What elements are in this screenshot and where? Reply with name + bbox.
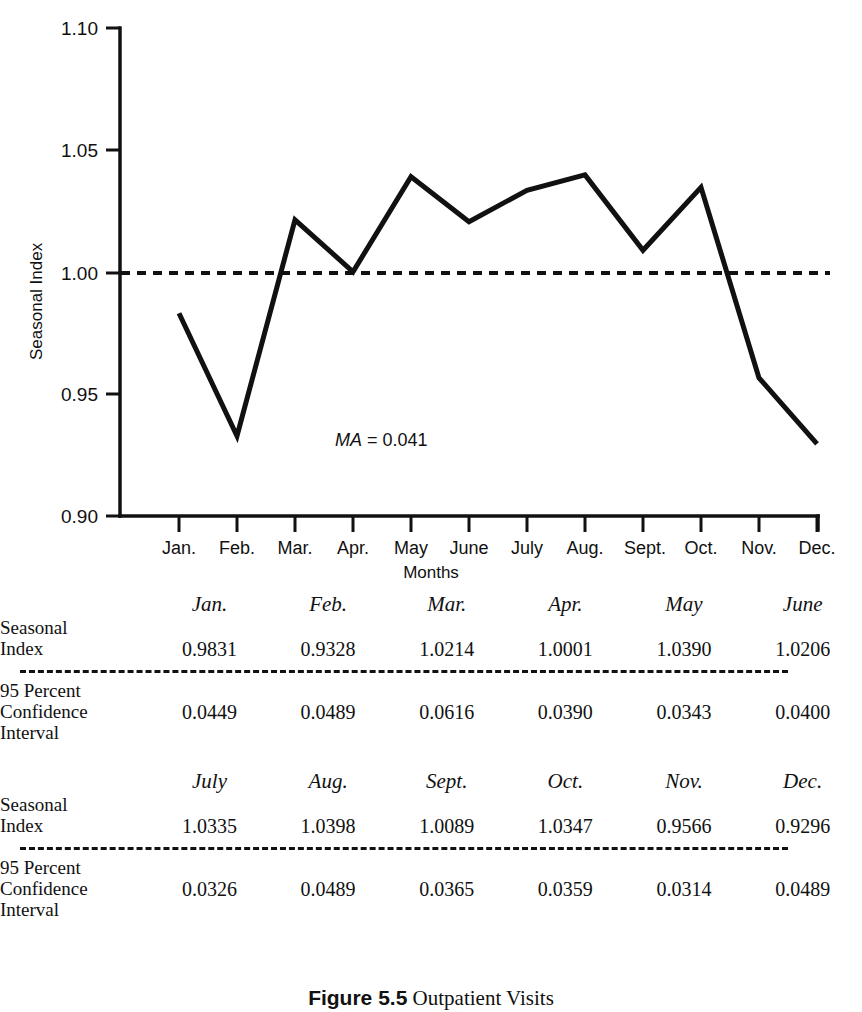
row-label-confidence-interval: 95 Percent Confidence Interval: [0, 855, 150, 920]
table-block-gap: [0, 743, 862, 769]
row-label-confidence-interval: 95 Percent Confidence Interval: [0, 678, 150, 743]
cell-seasonal-index-mar: 1.0214: [387, 617, 506, 661]
seasonal-index-chart: 1.10 1.05 1.00 0.95 0.90 Seasonal Index …: [0, 0, 862, 590]
table-header-row: July Aug. Sept. Oct. Nov. Dec.: [0, 769, 862, 794]
cell-confidence-interval-dec: 0.0489: [743, 855, 862, 920]
column-header-aug: Aug.: [269, 769, 388, 794]
table-block-first-half: Jan. Feb. Mar. Apr. May June Seasonal In…: [0, 592, 862, 743]
dashed-row-separator: [20, 847, 788, 850]
y-tick-label-100: 1.00: [61, 263, 98, 284]
figure-caption-number: Figure 5.5: [308, 986, 407, 1009]
x-tick-label-nov: Nov.: [741, 538, 777, 558]
data-table-second-half-ci: 95 Percent Confidence Interval 0.0326 0.…: [0, 855, 862, 920]
cell-confidence-interval-may: 0.0343: [625, 678, 744, 743]
y-tick-label-105: 1.05: [61, 140, 98, 161]
cell-seasonal-index-sept: 1.0089: [387, 794, 506, 838]
row-separator-wrap: [0, 838, 862, 855]
cell-confidence-interval-aug: 0.0489: [269, 855, 388, 920]
y-tick-label-110: 1.10: [61, 18, 98, 39]
cell-confidence-interval-june: 0.0400: [743, 678, 862, 743]
y-axis-title: Seasonal Index: [27, 242, 46, 360]
data-table-first-half-ci: 95 Percent Confidence Interval 0.0449 0.…: [0, 678, 862, 743]
cell-seasonal-index-aug: 1.0398: [269, 794, 388, 838]
y-tick-label-090: 0.90: [61, 506, 98, 527]
cell-seasonal-index-nov: 0.9566: [625, 794, 744, 838]
data-table-second-half: July Aug. Sept. Oct. Nov. Dec. Seasonal …: [0, 769, 862, 838]
row-separator-wrap: [0, 661, 862, 678]
table-block-second-half: July Aug. Sept. Oct. Nov. Dec. Seasonal …: [0, 769, 862, 920]
column-header-sept: Sept.: [387, 769, 506, 794]
table-row-seasonal-index: Seasonal Index 0.9831 0.9328 1.0214 1.00…: [0, 617, 862, 661]
column-header-oct: Oct.: [506, 769, 625, 794]
table-row-confidence-interval: 95 Percent Confidence Interval 0.0326 0.…: [0, 855, 862, 920]
cell-confidence-interval-jan: 0.0449: [150, 678, 269, 743]
table-header-row: Jan. Feb. Mar. Apr. May June: [0, 592, 862, 617]
seasonal-index-data-tables: Jan. Feb. Mar. Apr. May June Seasonal In…: [0, 592, 862, 920]
cell-confidence-interval-feb: 0.0489: [269, 678, 388, 743]
seasonal-index-line: [179, 175, 817, 444]
x-tick-label-feb: Feb.: [219, 538, 255, 558]
column-header-jan: Jan.: [150, 592, 269, 617]
cell-confidence-interval-apr: 0.0390: [506, 678, 625, 743]
chart-canvas: 1.10 1.05 1.00 0.95 0.90 Seasonal Index …: [0, 0, 862, 590]
column-header-may: May: [625, 592, 744, 617]
cell-confidence-interval-mar: 0.0616: [387, 678, 506, 743]
y-axis-ticks: [106, 28, 120, 516]
cell-seasonal-index-may: 1.0390: [625, 617, 744, 661]
x-tick-label-dec: Dec.: [798, 538, 835, 558]
x-tick-label-may: May: [394, 538, 428, 558]
column-header-july: July: [150, 769, 269, 794]
cell-seasonal-index-dec: 0.9296: [743, 794, 862, 838]
x-axis-ticks: [179, 516, 817, 532]
x-tick-label-july: July: [511, 538, 543, 558]
x-tick-label-aug: Aug.: [566, 538, 603, 558]
y-tick-label-095: 0.95: [61, 384, 98, 405]
figure-caption-text: Outpatient Visits: [413, 986, 554, 1010]
cell-confidence-interval-nov: 0.0314: [625, 855, 744, 920]
row-label-seasonal-index: Seasonal Index: [0, 794, 150, 838]
column-header-apr: Apr.: [506, 592, 625, 617]
figure-caption: Figure 5.5 Outpatient Visits: [0, 986, 862, 1011]
column-header-nov: Nov.: [625, 769, 744, 794]
cell-seasonal-index-june: 1.0206: [743, 617, 862, 661]
cell-confidence-interval-oct: 0.0359: [506, 855, 625, 920]
x-tick-label-apr: Apr.: [337, 538, 369, 558]
ma-annotation-value: = 0.041: [362, 430, 428, 450]
cell-seasonal-index-apr: 1.0001: [506, 617, 625, 661]
column-header-june: June: [743, 592, 862, 617]
row-label-header-spacer: [0, 592, 150, 617]
row-label-header-spacer: [0, 769, 150, 794]
x-axis-title: Months: [403, 563, 459, 582]
dashed-row-separator: [20, 670, 788, 673]
column-header-mar: Mar.: [387, 592, 506, 617]
cell-seasonal-index-july: 1.0335: [150, 794, 269, 838]
table-row-seasonal-index: Seasonal Index 1.0335 1.0398 1.0089 1.03…: [0, 794, 862, 838]
column-header-feb: Feb.: [269, 592, 388, 617]
x-tick-label-jan: Jan.: [162, 538, 196, 558]
x-tick-label-oct: Oct.: [684, 538, 717, 558]
ma-annotation: MA = 0.041: [335, 430, 428, 450]
ma-annotation-label: MA: [335, 430, 362, 450]
cell-seasonal-index-oct: 1.0347: [506, 794, 625, 838]
column-header-dec: Dec.: [743, 769, 862, 794]
data-table-first-half: Jan. Feb. Mar. Apr. May June Seasonal In…: [0, 592, 862, 661]
x-tick-label-june: June: [449, 538, 488, 558]
cell-confidence-interval-sept: 0.0365: [387, 855, 506, 920]
row-label-seasonal-index: Seasonal Index: [0, 617, 150, 661]
x-tick-label-sept: Sept.: [624, 538, 666, 558]
cell-seasonal-index-jan: 0.9831: [150, 617, 269, 661]
x-tick-label-mar: Mar.: [277, 538, 312, 558]
cell-seasonal-index-feb: 0.9328: [269, 617, 388, 661]
cell-confidence-interval-july: 0.0326: [150, 855, 269, 920]
table-row-confidence-interval: 95 Percent Confidence Interval 0.0449 0.…: [0, 678, 862, 743]
